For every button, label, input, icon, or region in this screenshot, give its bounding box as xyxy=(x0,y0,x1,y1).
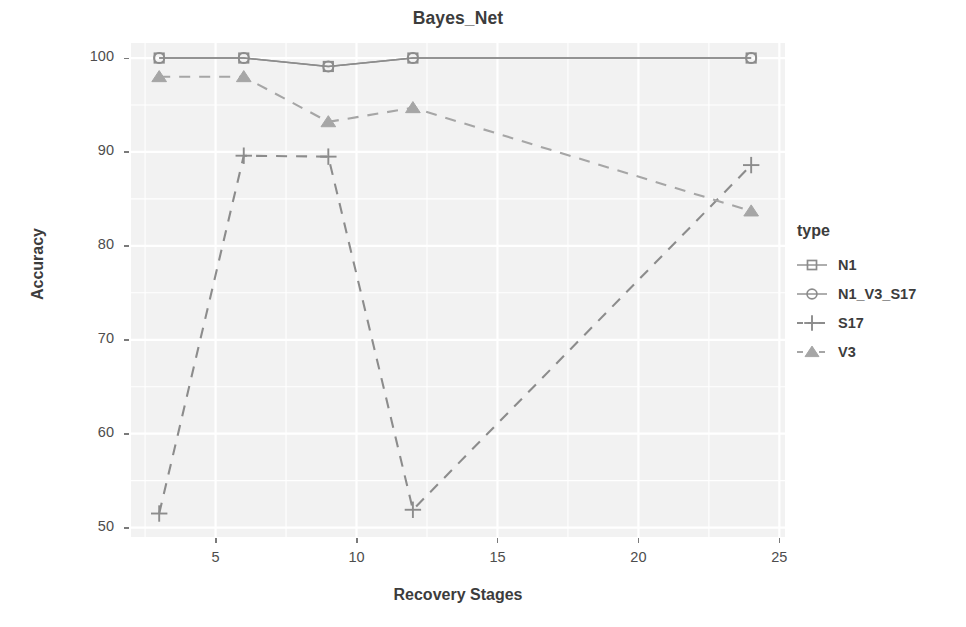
legend-item-v3[interactable]: V3 xyxy=(795,337,916,366)
legend-item-label: N1_V3_S17 xyxy=(838,286,916,302)
square-marker xyxy=(795,252,829,278)
chart-canvas: Bayes_Net Accuracy Recovery Stages 10090… xyxy=(0,0,966,627)
y-tick-label: 60 xyxy=(62,424,114,440)
y-tick-label: 100 xyxy=(62,48,114,64)
y-tick-mark xyxy=(124,245,129,247)
x-tick-label: 10 xyxy=(327,549,387,565)
y-tick-mark xyxy=(124,58,129,60)
triangle-marker xyxy=(236,71,251,82)
circle-marker xyxy=(795,281,829,307)
plus-marker xyxy=(795,310,829,336)
x-tick-label: 15 xyxy=(467,549,527,565)
x-axis-title: Recovery Stages xyxy=(131,586,785,604)
triangle-marker xyxy=(805,346,819,357)
y-tick-mark xyxy=(124,151,129,153)
x-tick-mark xyxy=(497,538,499,543)
series-N1 xyxy=(154,53,755,71)
legend-title: type xyxy=(797,222,916,240)
series-V3 xyxy=(152,71,759,216)
legend-item-label: S17 xyxy=(838,315,864,331)
y-tick-label: 50 xyxy=(62,518,114,534)
plot-panel xyxy=(131,43,785,537)
x-tick-label: 25 xyxy=(749,549,809,565)
y-tick-mark xyxy=(124,433,129,435)
chart-title: Bayes_Net xyxy=(131,8,785,29)
triangle-marker xyxy=(744,205,759,216)
y-tick-label: 90 xyxy=(62,142,114,158)
x-tick-label: 20 xyxy=(608,549,668,565)
y-tick-mark xyxy=(124,339,129,341)
legend-item-n1[interactable]: N1 xyxy=(795,250,916,279)
legend-item-n1_v3_s17[interactable]: N1_V3_S17 xyxy=(795,279,916,308)
series-line xyxy=(159,77,751,211)
legend-item-label: N1 xyxy=(838,257,857,273)
y-tick-label: 70 xyxy=(62,330,114,346)
series-S17 xyxy=(151,147,759,521)
y-tick-mark xyxy=(124,527,129,529)
x-tick-mark xyxy=(215,538,217,543)
triangle-marker xyxy=(795,339,829,365)
x-tick-label: 5 xyxy=(186,549,246,565)
legend: type N1N1_V3_S17S17V3 xyxy=(795,222,916,366)
series-line xyxy=(159,156,751,514)
x-tick-mark xyxy=(638,538,640,543)
legend-items: N1N1_V3_S17S17V3 xyxy=(795,250,916,366)
y-tick-label: 80 xyxy=(62,236,114,252)
y-axis-title: Accuracy xyxy=(29,204,47,324)
triangle-marker xyxy=(406,102,421,113)
legend-item-s17[interactable]: S17 xyxy=(795,308,916,337)
legend-item-label: V3 xyxy=(838,344,856,360)
plot-area xyxy=(131,43,785,537)
x-tick-mark xyxy=(356,538,358,543)
x-tick-mark xyxy=(779,538,781,543)
